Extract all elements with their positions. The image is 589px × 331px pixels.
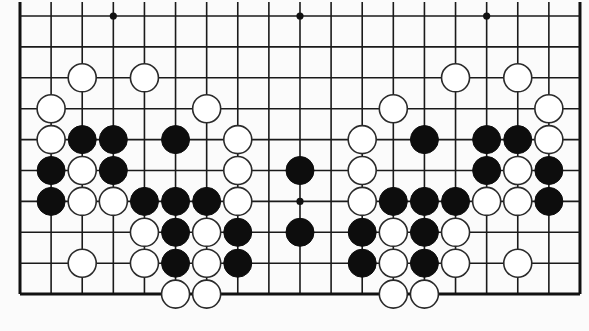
white-stone: [442, 218, 470, 246]
star-point-icon: [296, 12, 303, 19]
black-stone: [348, 218, 376, 246]
white-stone: [442, 64, 470, 92]
go-board: [0, 0, 589, 331]
black-stone: [130, 187, 158, 215]
white-stone: [379, 280, 407, 308]
white-stone: [473, 187, 501, 215]
white-stone: [130, 249, 158, 277]
white-stone: [37, 95, 65, 123]
black-stone: [99, 126, 127, 154]
black-stone: [535, 157, 563, 185]
white-stone: [504, 187, 532, 215]
white-stone: [162, 280, 190, 308]
white-stone: [193, 95, 221, 123]
white-stone: [379, 95, 407, 123]
white-stone: [504, 64, 532, 92]
white-stone: [193, 280, 221, 308]
white-stone: [68, 157, 96, 185]
black-stone: [37, 187, 65, 215]
black-stone: [410, 187, 438, 215]
black-stone: [162, 187, 190, 215]
white-stone: [379, 249, 407, 277]
black-stone: [162, 249, 190, 277]
white-stone: [348, 157, 376, 185]
black-stone: [286, 218, 314, 246]
white-stone: [68, 64, 96, 92]
black-stone: [99, 157, 127, 185]
black-stone: [348, 249, 376, 277]
white-stone: [379, 218, 407, 246]
black-stone: [535, 187, 563, 215]
white-stone: [224, 187, 252, 215]
star-point-icon: [110, 12, 117, 19]
black-stone: [162, 218, 190, 246]
white-stone: [68, 187, 96, 215]
white-stone: [224, 126, 252, 154]
black-stone: [410, 249, 438, 277]
white-stone: [37, 126, 65, 154]
white-stone: [193, 218, 221, 246]
black-stone: [224, 218, 252, 246]
white-stone: [348, 126, 376, 154]
white-stone: [348, 187, 376, 215]
star-point-icon: [483, 12, 490, 19]
black-stone: [162, 126, 190, 154]
black-stone: [410, 126, 438, 154]
black-stone: [473, 126, 501, 154]
black-stone: [504, 126, 532, 154]
white-stone: [224, 157, 252, 185]
white-stone: [504, 249, 532, 277]
white-stone: [535, 126, 563, 154]
white-stone: [410, 280, 438, 308]
white-stone: [130, 64, 158, 92]
black-stone: [442, 187, 470, 215]
black-stone: [473, 157, 501, 185]
black-stone: [193, 187, 221, 215]
star-point-icon: [296, 198, 303, 205]
black-stone: [224, 249, 252, 277]
white-stone: [68, 249, 96, 277]
white-stone: [130, 218, 158, 246]
white-stone: [535, 95, 563, 123]
black-stone: [379, 187, 407, 215]
black-stone: [37, 157, 65, 185]
white-stone: [442, 249, 470, 277]
black-stone: [68, 126, 96, 154]
black-stone: [410, 218, 438, 246]
white-stone: [99, 187, 127, 215]
white-stone: [193, 249, 221, 277]
go-board-diagram: [0, 0, 589, 331]
white-stone: [504, 157, 532, 185]
black-stone: [286, 157, 314, 185]
